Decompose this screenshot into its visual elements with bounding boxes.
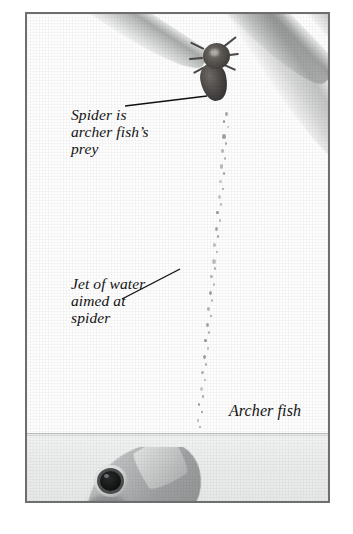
photograph-frame: Spider is archer fish’s prey Jet of wate… (25, 12, 330, 503)
water-droplet (223, 172, 225, 175)
spider-highlight (210, 49, 219, 56)
water-droplet (210, 275, 213, 278)
water-droplet (207, 347, 209, 350)
annotation-archer-fish: Archer fish (229, 402, 301, 419)
leaf-blade (59, 14, 212, 81)
water-droplet (225, 142, 227, 145)
water-droplet (202, 395, 204, 398)
water-droplet (221, 149, 224, 153)
water-droplet (222, 188, 224, 190)
water-droplet (213, 243, 216, 247)
water-droplet (220, 164, 223, 169)
water-droplet (223, 120, 225, 123)
figure-page: Spider is archer fish’s prey Jet of wate… (0, 0, 353, 534)
water-droplet (200, 387, 203, 391)
spider-leg (190, 42, 204, 50)
fish-eye-pupil (100, 471, 121, 491)
leaf-top-left (59, 14, 212, 81)
water-droplet (215, 227, 218, 231)
water-droplet (206, 323, 209, 327)
water-droplet (220, 203, 222, 206)
annotation-spider-is-archer-fish-prey: Spider is archer fish’s prey (71, 106, 149, 157)
water-droplet (212, 259, 216, 264)
water-droplet (201, 411, 203, 413)
water-droplet (213, 283, 215, 286)
water-droplet (225, 112, 228, 116)
water-droplet (197, 419, 199, 422)
water-droplet (198, 403, 200, 406)
water-droplet (216, 211, 219, 214)
below-water-region (27, 433, 328, 503)
water-surface-line-secondary (27, 435, 328, 436)
water-droplet (209, 291, 212, 295)
water-droplet (199, 426, 201, 428)
annotation-jet-of-water-aimed-at-spider: Jet of water aimed at spider (71, 275, 145, 326)
water-droplet (205, 363, 207, 366)
water-droplet (219, 180, 222, 183)
water-droplet (216, 251, 218, 253)
water-droplet (207, 307, 210, 311)
fish-eye-glint (104, 474, 109, 478)
water-droplet (204, 379, 206, 381)
water-droplet (204, 339, 207, 342)
water-droplet (217, 235, 219, 238)
water-droplet (219, 219, 221, 222)
spider-leg (189, 57, 203, 60)
water-droplet (222, 134, 226, 139)
above-water-region (27, 14, 328, 433)
water-droplet (201, 371, 204, 374)
water-droplet (203, 355, 206, 359)
water-droplet (214, 267, 216, 270)
archer-fish (82, 447, 204, 503)
water-droplet (227, 126, 229, 128)
water-droplet (218, 195, 221, 199)
water-droplet (211, 299, 213, 302)
water-surface-line (27, 433, 328, 434)
water-droplet (224, 157, 226, 160)
spider (192, 37, 240, 105)
water-droplet (208, 331, 210, 334)
water-droplet (210, 315, 212, 317)
